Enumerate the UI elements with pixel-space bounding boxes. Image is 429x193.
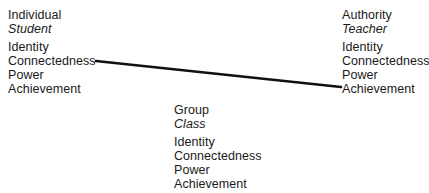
column-group-subheading: Class: [174, 117, 262, 131]
column-authority-subheading: Teacher: [342, 22, 429, 36]
column-group-attr-power: Power: [174, 163, 262, 177]
column-authority-attr-achievement: Achievement: [342, 82, 429, 96]
column-authority: Authority Teacher Identity Connectedness…: [342, 8, 429, 96]
column-individual-attr-identity: Identity: [8, 40, 96, 54]
column-authority-attr-identity: Identity: [342, 40, 429, 54]
column-authority-heading: Authority: [342, 8, 429, 22]
column-group: Group Class Identity Connectedness Power…: [174, 103, 262, 191]
column-group-attr-identity: Identity: [174, 135, 262, 149]
column-authority-attr-power: Power: [342, 68, 429, 82]
column-authority-attr-connectedness: Connectedness: [342, 54, 429, 68]
column-individual-subheading: Student: [8, 22, 96, 36]
column-individual-attr-power: Power: [8, 68, 96, 82]
column-individual: Individual Student Identity Connectednes…: [8, 8, 96, 96]
column-group-attr-achievement: Achievement: [174, 177, 262, 191]
column-group-attr-connectedness: Connectedness: [174, 149, 262, 163]
column-individual-attr-connectedness: Connectedness: [8, 54, 96, 68]
column-individual-heading: Individual: [8, 8, 96, 22]
connector-line-segment: [96, 61, 341, 87]
column-individual-attr-achievement: Achievement: [8, 82, 96, 96]
concept-diagram: Individual Student Identity Connectednes…: [0, 0, 429, 193]
column-group-heading: Group: [174, 103, 262, 117]
